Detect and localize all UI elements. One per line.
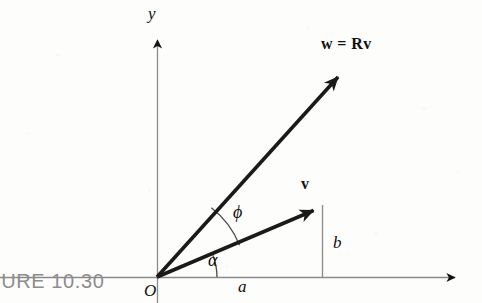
axis-group bbox=[0, 40, 455, 303]
component-b-label: b bbox=[333, 234, 342, 251]
vector-rotation-diagram bbox=[0, 0, 482, 303]
angle-alpha-label: α bbox=[208, 251, 217, 269]
component-a-label: a bbox=[238, 278, 247, 295]
figure-container: y O w = Rv v α ϕ a b FIGURE 10.30 bbox=[0, 0, 482, 303]
y-axis-label: y bbox=[148, 5, 156, 22]
vectors-group bbox=[157, 77, 338, 277]
vector-w-label: w = Rv bbox=[321, 36, 372, 52]
angle-phi-label: ϕ bbox=[233, 203, 242, 221]
origin-label: O bbox=[144, 282, 156, 299]
figure-caption: FIGURE 10.30 bbox=[0, 270, 104, 293]
vector-w-arrow bbox=[157, 77, 338, 277]
vector-v-label: v bbox=[301, 176, 309, 192]
